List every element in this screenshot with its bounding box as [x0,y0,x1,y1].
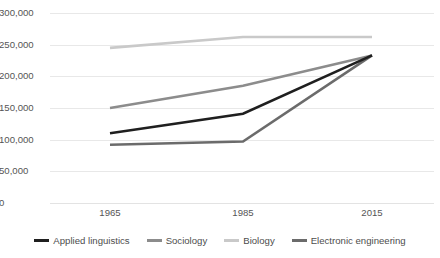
series-line [110,55,372,133]
legend-label: Sociology [166,235,208,246]
chart-legend: Applied linguisticsSociologyBiologyElect… [0,230,440,250]
legend-item[interactable]: Sociology [147,235,208,246]
x-axis-tick-label: 2015 [361,206,382,220]
y-axis-tick-label: 250,000 [0,40,43,50]
legend-item[interactable]: Applied linguistics [34,235,129,246]
legend-swatch-icon [34,239,49,242]
series-line [110,55,372,144]
legend-label: Biology [243,235,274,246]
series-line [110,37,372,48]
legend-swatch-icon [224,239,239,242]
legend-swatch-icon [147,239,162,242]
series-layer [50,13,434,203]
gridline [50,203,434,204]
y-axis-tick-label: 50,000 [0,166,43,176]
legend-item[interactable]: Electronic engineering [292,235,406,246]
y-axis-tick-label: 300,000 [0,8,43,18]
y-axis-tick-label: 150,000 [0,103,43,113]
line-chart: 300,000250,000200,000150,000100,00050,00… [0,0,440,258]
legend-swatch-icon [292,239,307,242]
x-axis-tick-label: 1965 [99,206,120,220]
y-axis-tick-label: 100,000 [0,135,43,145]
legend-item[interactable]: Biology [224,235,274,246]
legend-label: Electronic engineering [311,235,406,246]
y-axis-tick-label: 200,000 [0,71,43,81]
legend-label: Applied linguistics [53,235,129,246]
x-axis-tick-label: 1985 [232,206,253,220]
x-axis-tick-labels: 196519852015 [0,206,440,222]
plot-area [50,13,434,203]
